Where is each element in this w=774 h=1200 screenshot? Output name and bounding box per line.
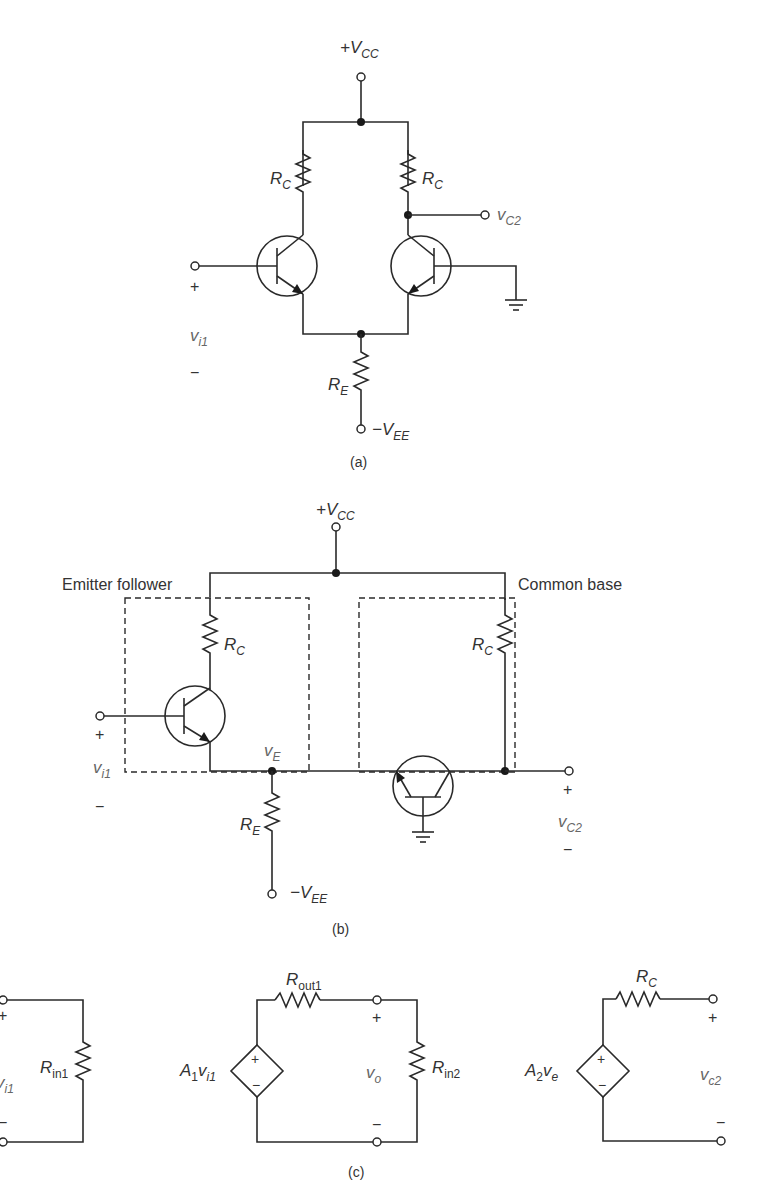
vi1-plus-a: + xyxy=(190,278,199,295)
vi1-terminal-b xyxy=(96,712,104,720)
rin2-resistor xyxy=(381,1000,424,1142)
vee-terminal-b xyxy=(268,890,276,898)
common-base-box xyxy=(359,598,515,772)
vo-plus-terminal xyxy=(373,996,381,1004)
rc-right-resistor-b xyxy=(498,598,512,771)
vc2-terminal-b xyxy=(565,767,573,775)
vc2-minus-terminal-c xyxy=(717,1137,725,1145)
rout1-label: Rout1 xyxy=(286,970,322,993)
rc-left-label-b: RC xyxy=(224,635,245,658)
vcc-label-b: +VCC xyxy=(316,500,355,523)
rin1-label: Rin1 xyxy=(40,1058,69,1081)
svg-text:+: + xyxy=(708,1009,717,1026)
svg-text:−: − xyxy=(598,1077,606,1093)
vo-minus-terminal xyxy=(373,1138,381,1146)
vi1-terminal-a xyxy=(191,262,199,270)
transistor-q2-a xyxy=(391,235,527,310)
vcc-label-a: +VCC xyxy=(340,38,379,61)
vcc-terminal-b xyxy=(332,523,340,531)
svg-text:+: + xyxy=(251,1051,259,1067)
vee-label-a: −VEE xyxy=(372,420,410,443)
stage2-amplifier-model: + − A1vi1 Rout1 + vo − Rin2 xyxy=(179,970,461,1146)
transistor-cb-b xyxy=(393,756,453,842)
svg-text:+: + xyxy=(372,1009,381,1026)
vi1-label-b: vi1 xyxy=(93,758,111,781)
vc2-terminal-a xyxy=(481,211,489,219)
vc2-minus-b: − xyxy=(563,841,572,858)
caption-a: (a) xyxy=(350,454,367,470)
stage3-common-base-model: + − A2ve RC + vc2 − xyxy=(524,967,725,1145)
rc-left-resistor-b xyxy=(203,598,217,690)
re-label-b: RE xyxy=(240,815,261,838)
vc2-plus-terminal-c xyxy=(709,995,717,1003)
figure-a-differential-pair: +VCC RC RC vC2 xyxy=(190,38,527,470)
rc-left-label-a: RC xyxy=(270,169,291,192)
figure-b-ef-cb-cascade: +VCC Emitter follower Common base RC + v… xyxy=(62,500,622,937)
svg-text:+: + xyxy=(597,1051,605,1067)
vcc-terminal-a xyxy=(357,73,365,81)
vc2-plus-b: + xyxy=(563,781,572,798)
vc2-label-c: vc2 xyxy=(700,1065,722,1088)
common-base-label: Common base xyxy=(518,576,622,593)
vi1-plus-c: + xyxy=(0,1007,7,1024)
vee-label-b: −VEE xyxy=(290,883,328,906)
caption-c: (c) xyxy=(348,1164,364,1180)
svg-text:−: − xyxy=(252,1077,260,1093)
emitter-follower-label: Emitter follower xyxy=(62,576,173,593)
caption-b: (b) xyxy=(332,921,349,937)
vc2-label-b: vC2 xyxy=(558,812,582,835)
vi1-plus-b: + xyxy=(95,726,104,743)
vi1-minus-b: − xyxy=(95,798,104,815)
rc-right-label-b: RC xyxy=(472,635,493,658)
re-resistor-b xyxy=(265,771,279,890)
a2-ve-label: A2ve xyxy=(524,1061,559,1084)
vee-terminal-a xyxy=(357,425,365,433)
rc-right-label-a: RC xyxy=(422,169,443,192)
rout1-resistor xyxy=(275,993,320,1007)
rc-label-c: RC xyxy=(636,967,657,990)
vi1-label-a: vi1 xyxy=(190,326,208,349)
re-resistor-a xyxy=(354,334,368,425)
a1-vi1-label: A1vi1 xyxy=(179,1061,216,1084)
transistor-ef-b xyxy=(96,686,225,746)
vi1-label-c: vi1 xyxy=(0,1073,14,1096)
stage1-input-model: + vi1 − Rin1 xyxy=(0,996,90,1146)
svg-text:−: − xyxy=(372,1116,381,1133)
svg-text:−: − xyxy=(716,1114,725,1131)
re-label-a: RE xyxy=(328,375,349,398)
circuit-figure: +VCC RC RC vC2 xyxy=(0,0,774,1200)
rc-resistor-c xyxy=(616,992,660,1006)
vi1-minus-c: − xyxy=(0,1114,7,1131)
emitter-follower-box xyxy=(125,598,309,772)
ve-label: vE xyxy=(264,741,282,764)
vc2-label-a: vC2 xyxy=(497,205,521,228)
figure-c-small-signal-model: + vi1 − Rin1 + − A1vi1 Rout1 + vo − Rin2 xyxy=(0,967,725,1180)
rin2-label: Rin2 xyxy=(432,1058,461,1081)
vo-label: vo xyxy=(366,1063,382,1086)
transistor-q1-a xyxy=(191,235,317,296)
vi1-minus-a: − xyxy=(190,364,199,381)
vcc-junction-a xyxy=(357,118,365,126)
